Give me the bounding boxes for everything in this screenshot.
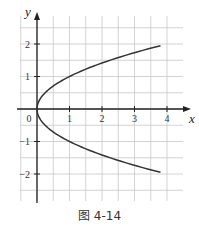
svg-text:2: 2 — [25, 39, 30, 50]
svg-text:4: 4 — [165, 113, 170, 124]
svg-text:−1: −1 — [19, 136, 30, 147]
parabola-chart: 12340−2−112xy — [0, 0, 199, 230]
svg-text:−2: −2 — [19, 169, 30, 180]
svg-text:x: x — [188, 111, 195, 126]
svg-text:1: 1 — [25, 71, 30, 82]
svg-text:3: 3 — [132, 113, 137, 124]
svg-text:0: 0 — [27, 113, 32, 124]
svg-text:y: y — [23, 4, 31, 19]
svg-text:2: 2 — [100, 113, 105, 124]
figure-caption: 图 4-14 — [0, 206, 199, 223]
svg-text:1: 1 — [67, 113, 72, 124]
